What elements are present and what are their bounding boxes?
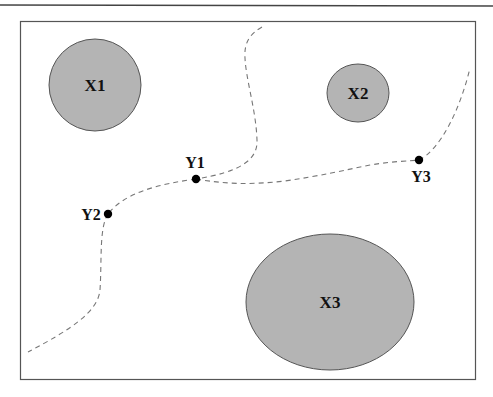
region-x3: X3	[246, 234, 414, 370]
point-y3-dot	[415, 156, 423, 164]
point-y1-dot	[192, 175, 200, 183]
point-y3-label: Y3	[411, 168, 431, 185]
top-rule	[0, 5, 493, 6]
region-x3-label: X3	[320, 293, 341, 312]
region-x2: X2	[327, 64, 389, 122]
region-x2-label: X2	[348, 84, 369, 103]
point-y2-dot	[104, 210, 112, 218]
diagram-canvas: X1 X2 X3 Y1 Y2 Y3	[0, 0, 493, 397]
region-x1-label: X1	[85, 76, 106, 95]
point-y1-label: Y1	[185, 154, 205, 171]
point-y2-label: Y2	[81, 206, 101, 223]
region-x1: X1	[49, 39, 141, 131]
